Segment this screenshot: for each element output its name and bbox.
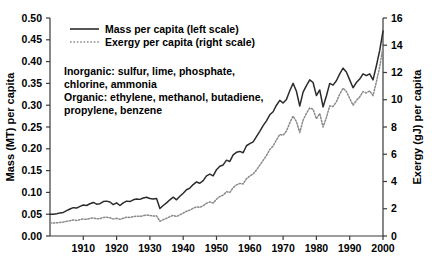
- chart-container: 0.000.050.100.150.200.250.300.350.400.45…: [0, 0, 432, 260]
- left-tick-label: 0.50: [22, 12, 43, 24]
- left-tick-label: 0.15: [22, 164, 43, 176]
- right-tick-label: 16: [391, 12, 403, 24]
- y-axis-label: Mass (MT) per capita: [4, 72, 16, 182]
- annotation-line-1: Inorganic: sulfur, lime, phosphate,: [64, 65, 235, 77]
- right-tick-label: 6: [391, 148, 397, 160]
- bottom-tick-label: 1930: [138, 242, 162, 254]
- annotation-line-3: Organic: ethylene, methanol, butadiene,: [64, 91, 264, 103]
- left-tick-label: 0.25: [22, 121, 43, 133]
- left-tick-label: 0.40: [22, 55, 43, 67]
- left-tick-label: 0.05: [22, 208, 43, 220]
- bottom-tick-label: 1940: [172, 242, 196, 254]
- left-tick-label: 0.35: [22, 77, 43, 89]
- right-tick-label: 4: [391, 175, 397, 187]
- left-tick-label: 0.10: [22, 186, 43, 198]
- legend-label-mass: Mass per capita (left scale): [105, 23, 239, 35]
- annotation-line-4: propylene, benzene: [64, 104, 162, 116]
- legend-label-exergy: Exergy per capita (right scale): [105, 36, 255, 48]
- bottom-tick-label: 1910: [72, 242, 96, 254]
- line-chart: 0.000.050.100.150.200.250.300.350.400.45…: [0, 0, 432, 260]
- bottom-tick-label: 1980: [305, 242, 329, 254]
- y2-axis-label: Exergy (gJ) per capita: [411, 69, 423, 185]
- right-tick-label: 8: [391, 121, 397, 133]
- bottom-tick-label: 1970: [271, 242, 295, 254]
- bottom-tick-label: 1920: [105, 242, 129, 254]
- right-tick-label: 2: [391, 202, 397, 214]
- left-tick-label: 0.30: [22, 99, 43, 111]
- right-tick-label: 10: [391, 93, 403, 105]
- left-tick-label: 0.20: [22, 142, 43, 154]
- annotation-line-2: chlorine, ammonia: [64, 78, 157, 90]
- bottom-tick-label: 1990: [338, 242, 362, 254]
- left-tick-label: 0.00: [22, 230, 43, 242]
- left-tick-label: 0.45: [22, 33, 43, 45]
- bottom-tick-label: 1960: [238, 242, 262, 254]
- right-tick-label: 12: [391, 66, 403, 78]
- right-tick-label: 0: [391, 230, 397, 242]
- bottom-tick-label: 1950: [205, 242, 229, 254]
- right-tick-label: 14: [391, 39, 403, 51]
- bottom-tick-label: 2000: [371, 242, 395, 254]
